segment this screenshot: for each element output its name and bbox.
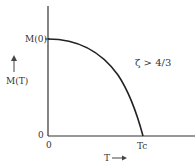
zeta-annotation: ζ > 4/3 bbox=[135, 58, 171, 68]
t-axis-label: T bbox=[104, 153, 110, 163]
mt-label: M(T) bbox=[6, 76, 28, 86]
t-arrow-head-icon bbox=[122, 156, 127, 161]
tc-label: Tc bbox=[137, 141, 147, 151]
y-arrow-head-icon bbox=[11, 55, 17, 61]
m0-label: M(0) bbox=[25, 34, 47, 44]
origin-x-label: 0 bbox=[46, 140, 52, 150]
magnetization-curve bbox=[48, 39, 143, 136]
origin-y-label: 0 bbox=[38, 130, 44, 140]
chart-canvas bbox=[0, 0, 195, 166]
